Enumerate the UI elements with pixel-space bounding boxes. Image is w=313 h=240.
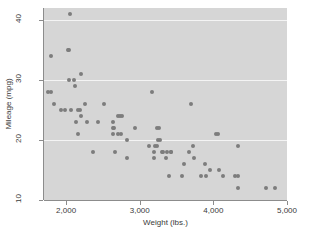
data-point bbox=[91, 150, 95, 154]
data-point bbox=[155, 144, 159, 148]
data-point bbox=[73, 84, 77, 88]
x-tick-label-5000: 5,000 bbox=[277, 206, 297, 215]
data-point bbox=[66, 48, 70, 52]
data-point bbox=[150, 90, 154, 94]
gridline-y-20 bbox=[44, 140, 287, 141]
data-point bbox=[68, 12, 72, 16]
data-point bbox=[111, 120, 115, 124]
data-point bbox=[191, 144, 195, 148]
data-point bbox=[236, 186, 240, 190]
data-point bbox=[69, 108, 73, 112]
data-point bbox=[182, 162, 186, 166]
data-point bbox=[111, 132, 115, 136]
x-tick-label-4000: 4,000 bbox=[203, 206, 223, 215]
data-point bbox=[161, 150, 165, 154]
data-point bbox=[157, 126, 161, 130]
y-tick-40 bbox=[39, 20, 43, 21]
data-point bbox=[125, 138, 129, 142]
data-point bbox=[273, 186, 277, 190]
data-point bbox=[133, 126, 137, 130]
data-point bbox=[152, 150, 156, 154]
x-tick-2000 bbox=[66, 201, 67, 205]
y-tick-label-40: 40 bbox=[0, 14, 36, 23]
scatter-plot-figure: 10203040 2,0003,0004,0005,000 Mileage (m… bbox=[0, 0, 313, 240]
x-tick-3000 bbox=[140, 201, 141, 205]
x-tick-5000 bbox=[287, 201, 288, 205]
data-point bbox=[63, 108, 67, 112]
data-point bbox=[112, 126, 116, 130]
y-axis-title: Mileage (mpg) bbox=[4, 78, 13, 129]
data-point bbox=[125, 156, 129, 160]
x-axis-title: Weight (lbs.) bbox=[44, 218, 287, 227]
data-point bbox=[116, 132, 120, 136]
data-point bbox=[203, 162, 207, 166]
x-tick-4000 bbox=[213, 201, 214, 205]
data-point bbox=[72, 78, 76, 82]
y-tick-label-10: 10 bbox=[0, 194, 36, 203]
data-point bbox=[192, 156, 196, 160]
data-point bbox=[74, 120, 78, 124]
data-point bbox=[236, 174, 240, 178]
gridline-y-40 bbox=[44, 20, 287, 21]
y-tick-label-20: 20 bbox=[0, 134, 36, 143]
data-point bbox=[158, 138, 162, 142]
data-point bbox=[221, 174, 225, 178]
data-point bbox=[49, 90, 53, 94]
data-point bbox=[187, 150, 191, 154]
data-point bbox=[208, 168, 212, 172]
data-point bbox=[165, 150, 169, 154]
data-point bbox=[52, 102, 56, 106]
data-point bbox=[120, 114, 124, 118]
data-point bbox=[59, 108, 63, 112]
x-tick-label-2000: 2,000 bbox=[56, 206, 76, 215]
y-tick-10 bbox=[39, 200, 43, 201]
y-axis-line bbox=[43, 8, 44, 200]
plot-data-area bbox=[44, 8, 287, 200]
x-tick-label-3000: 3,000 bbox=[130, 206, 150, 215]
data-point bbox=[167, 174, 171, 178]
data-point bbox=[189, 102, 193, 106]
data-point bbox=[164, 156, 168, 160]
data-point bbox=[236, 144, 240, 148]
data-point bbox=[119, 132, 123, 136]
data-point bbox=[96, 120, 100, 124]
data-point bbox=[216, 132, 220, 136]
data-point bbox=[76, 108, 80, 112]
data-point bbox=[169, 150, 173, 154]
data-point bbox=[199, 174, 203, 178]
gridline-y-30 bbox=[44, 80, 287, 81]
y-tick-20 bbox=[39, 140, 43, 141]
data-point bbox=[152, 156, 156, 160]
data-point bbox=[180, 174, 184, 178]
data-point bbox=[113, 150, 117, 154]
data-point bbox=[67, 78, 71, 82]
x-axis-line bbox=[44, 200, 287, 201]
data-point bbox=[49, 54, 53, 58]
data-point bbox=[102, 102, 106, 106]
data-point bbox=[217, 168, 221, 172]
data-point bbox=[76, 132, 80, 136]
y-tick-30 bbox=[39, 80, 43, 81]
data-point bbox=[147, 144, 151, 148]
data-point bbox=[83, 102, 87, 106]
data-point bbox=[79, 72, 83, 76]
data-point bbox=[264, 186, 268, 190]
data-point bbox=[79, 114, 83, 118]
data-point bbox=[204, 174, 208, 178]
data-point bbox=[85, 120, 89, 124]
